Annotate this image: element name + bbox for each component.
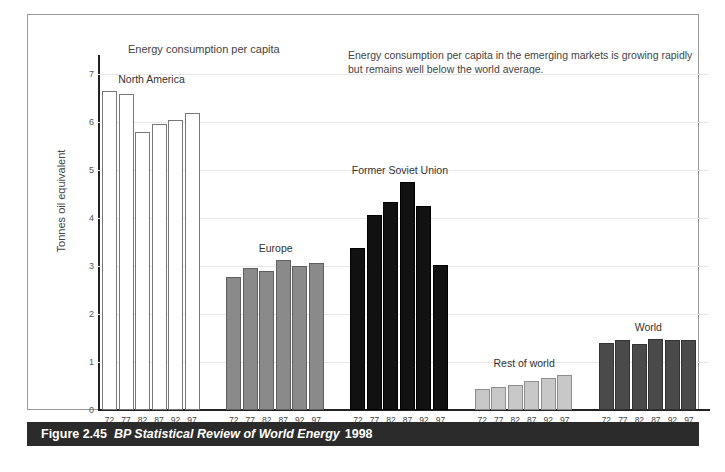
y-axis-tick-label: 5 [72,166,94,175]
bar [226,277,241,410]
bar [599,343,614,410]
caption-source-title: BP Statistical Review of World Energy [114,427,340,441]
bar [135,132,150,410]
bar [292,266,307,410]
bar [632,344,647,410]
bar-group-label: North America [72,73,232,85]
caption-figure-number: Figure 2.45 [41,427,107,441]
bar [259,271,274,410]
y-axis-tick-label: 6 [72,118,94,127]
y-axis-tick-label: 1 [72,358,94,367]
bar [557,375,572,410]
bar [102,91,117,410]
y-axis-tick-label: 3 [72,262,94,271]
bar [152,124,167,410]
bar [243,268,258,410]
bar [350,248,365,410]
figure-caption: Figure 2.45 BP Statistical Review of Wor… [27,422,699,446]
bar [416,206,431,410]
bar [276,260,291,410]
bar [433,265,448,410]
bar [665,340,680,410]
bar [615,340,630,410]
bar [400,182,415,410]
y-axis-tick-label: 2 [72,310,94,319]
figure-frame: Energy consumption per capita Energy con… [27,14,699,410]
bar [508,385,523,410]
bar [648,339,663,410]
bar-group-label: World [568,321,725,333]
bar [475,389,490,410]
bar-group-label: Rest of world [444,357,604,369]
bar-group-label: Former Soviet Union [320,164,480,176]
bar [309,263,324,410]
bar [383,202,398,410]
bar [491,387,506,410]
bar [119,94,134,410]
y-axis-tick-label: 0 [72,406,94,415]
bar [524,381,539,410]
y-axis-title: Tonnes oil equivalent [55,106,67,296]
chart-heading: Energy consumption per capita [128,43,280,55]
bar [185,113,200,410]
bar [367,215,382,410]
plot-area [98,55,709,410]
y-axis-tick-label: 4 [72,214,94,223]
bar-group-label: Europe [196,242,356,254]
caption-year: 1998 [345,427,373,441]
bar [681,340,696,410]
bar [168,120,183,410]
bar [541,378,556,410]
